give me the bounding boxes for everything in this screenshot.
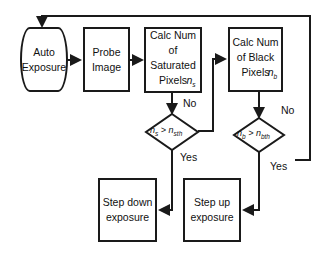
saturated-decision-label: ns > nsth	[150, 125, 182, 137]
step-up-node: Step up exposure	[183, 178, 241, 242]
calc-saturated-var: ns	[186, 73, 195, 92]
step-down-node: Step down exposure	[98, 178, 157, 242]
saturated-no-label: No	[183, 97, 196, 109]
probe-image-label: Probe Image	[85, 45, 128, 75]
calc-black-node: Calc Num of Black Pixels nb	[228, 27, 283, 92]
saturated-yes-label: Yes	[180, 151, 197, 163]
black-yes-label: Yes	[270, 160, 287, 172]
step-up-label: Step up exposure	[185, 195, 239, 225]
calc-saturated-node: Calc Num of Saturated Pixels ns	[144, 27, 202, 93]
black-no-label: No	[281, 104, 294, 116]
auto-exposure-node: Auto Exposure	[20, 27, 68, 92]
black-decision-label: nb > nbth	[237, 128, 270, 140]
calc-black-var: nb	[268, 65, 277, 84]
probe-image-node: Probe Image	[83, 27, 130, 92]
auto-exposure-label: Auto Exposure	[22, 45, 66, 75]
step-down-label: Step down exposure	[100, 195, 155, 225]
